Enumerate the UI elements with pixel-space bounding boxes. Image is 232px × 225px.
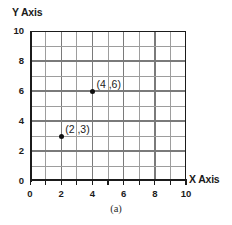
x-tick-label: 8 [144, 188, 166, 199]
y-tick-label: 8 [2, 55, 24, 66]
data-point-label: (2 ,3) [65, 123, 90, 135]
data-point-marker [59, 134, 64, 139]
x-tick-label: 6 [113, 188, 135, 199]
data-point-label: (4 ,6) [96, 78, 121, 90]
x-tick-label: 0 [19, 188, 41, 199]
data-point-marker [90, 89, 95, 94]
y-tick-label: 2 [2, 145, 24, 156]
y-tick-label: 10 [2, 25, 24, 36]
figure-caption: (a) [0, 203, 232, 214]
x-tick-label: 10 [175, 188, 197, 199]
y-tick-label: 0 [2, 175, 24, 186]
coordinate-plane-figure: Y Axis X Axis 0246810 0246810 (4 ,6)(2 ,… [0, 0, 232, 225]
grid-lines [30, 31, 186, 181]
y-axis-title: Y Axis [12, 6, 42, 18]
x-tick-label: 4 [81, 188, 103, 199]
y-tick-label: 6 [2, 85, 24, 96]
plot-area [30, 31, 186, 181]
grid-and-axes [30, 31, 192, 189]
x-axis-title: X Axis [189, 173, 220, 185]
x-tick-label: 2 [50, 188, 72, 199]
y-tick-label: 4 [2, 115, 24, 126]
